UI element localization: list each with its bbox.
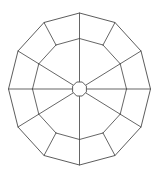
spoke-sw xyxy=(39,93,73,114)
mid-chord-8 xyxy=(39,114,56,133)
strut-9 xyxy=(18,114,39,127)
mid-chord-4 xyxy=(120,89,126,114)
mid-chord-6 xyxy=(80,133,104,140)
figure-root xyxy=(0,0,160,174)
strut-3 xyxy=(120,51,141,64)
spoke-se xyxy=(86,93,120,114)
spoke-nw xyxy=(39,64,73,85)
strut-5 xyxy=(120,114,141,127)
mid-chord-2 xyxy=(103,45,120,64)
mid-chord-5 xyxy=(103,114,120,133)
mid-chord-7 xyxy=(56,133,80,140)
central-hub-polygon xyxy=(73,82,87,96)
mid-chord-9 xyxy=(33,89,39,114)
mid-chord-11 xyxy=(39,45,56,64)
strut-12 xyxy=(44,23,56,46)
strut-2 xyxy=(103,23,115,46)
strut-8 xyxy=(44,133,56,156)
mesh-diagram xyxy=(0,0,160,174)
mid-chord-12 xyxy=(56,39,80,46)
strut-6 xyxy=(103,133,115,156)
mid-chord-1 xyxy=(80,39,104,46)
strut-11 xyxy=(18,51,39,64)
mid-chord-10 xyxy=(33,64,39,89)
spoke-ne xyxy=(86,64,120,85)
mid-chord-3 xyxy=(120,64,126,89)
